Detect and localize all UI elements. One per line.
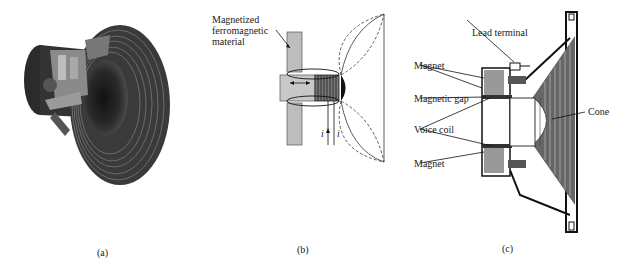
label-magnet-top: Magnet: [414, 60, 445, 71]
label-voice-coil: Voice coil: [414, 124, 454, 135]
label-current-right: i: [337, 128, 340, 139]
caption-b: (b): [297, 244, 309, 255]
label-magnetic-gap: Magnetic gap: [414, 93, 469, 104]
label-current-left: i: [321, 128, 324, 139]
speaker-cutaway-illustration: [0, 0, 210, 269]
label-magnet-bottom: Magnet: [414, 158, 445, 169]
label-lead-terminal: Lead terminal: [472, 27, 528, 38]
panel-b: Magnetized ferromagnetic material i i (b…: [210, 0, 420, 269]
label-cone: Cone: [588, 106, 609, 117]
label-magnetized-material: Magnetized ferromagnetic material: [212, 14, 268, 47]
panel-c: Lead terminal Magnet Magnetic gap Voice …: [420, 0, 632, 269]
panel-a: (a): [0, 0, 210, 269]
caption-c: (c): [502, 243, 513, 254]
caption-a: (a): [97, 247, 108, 258]
